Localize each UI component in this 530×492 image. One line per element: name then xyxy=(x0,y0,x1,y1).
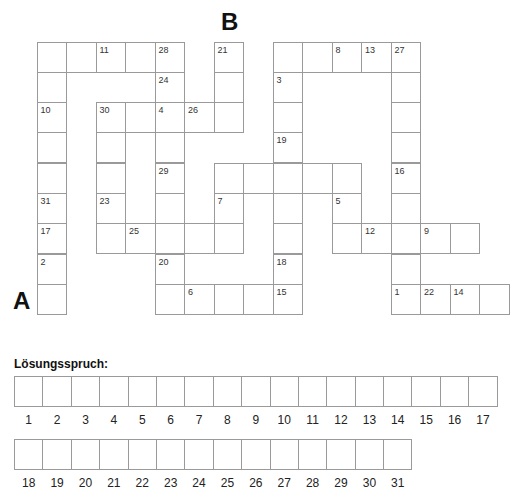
grid-cell[interactable] xyxy=(332,163,363,194)
grid-cell[interactable] xyxy=(37,132,68,163)
solution-letter-box[interactable]: 14 xyxy=(383,376,412,407)
solution-letter-box[interactable]: 2 xyxy=(42,376,71,407)
grid-cell[interactable] xyxy=(391,223,422,254)
grid-cell[interactable]: 23 xyxy=(96,193,127,224)
grid-cell[interactable]: 24 xyxy=(155,72,186,103)
grid-cell[interactable] xyxy=(96,223,127,254)
grid-cell[interactable] xyxy=(243,163,274,194)
grid-cell[interactable]: 3 xyxy=(273,72,304,103)
grid-cell[interactable] xyxy=(243,284,274,315)
solution-letter-box[interactable]: 19 xyxy=(42,439,71,470)
grid-cell[interactable] xyxy=(155,223,186,254)
solution-letter-box[interactable]: 11 xyxy=(298,376,327,407)
grid-cell[interactable] xyxy=(391,193,422,224)
grid-cell[interactable]: 31 xyxy=(37,193,68,224)
grid-cell[interactable]: 18 xyxy=(273,254,304,285)
solution-letter-box[interactable]: 17 xyxy=(468,376,497,407)
grid-cell[interactable]: 2 xyxy=(37,254,68,285)
solution-letter-box[interactable]: 24 xyxy=(184,439,213,470)
grid-cell[interactable] xyxy=(37,284,68,315)
grid-cell[interactable]: 14 xyxy=(450,284,481,315)
grid-cell[interactable] xyxy=(302,42,333,73)
solution-letter-box[interactable]: 13 xyxy=(355,376,384,407)
solution-letter-box[interactable]: 4 xyxy=(99,376,128,407)
grid-cell[interactable] xyxy=(391,132,422,163)
grid-cell[interactable] xyxy=(479,284,510,315)
grid-cell[interactable]: 16 xyxy=(391,163,422,194)
solution-letter-box[interactable]: 22 xyxy=(128,439,157,470)
grid-cell[interactable] xyxy=(37,72,68,103)
grid-cell[interactable]: 15 xyxy=(273,284,304,315)
grid-cell[interactable] xyxy=(125,102,156,133)
grid-cell[interactable]: 22 xyxy=(420,284,451,315)
solution-letter-box[interactable]: 29 xyxy=(326,439,355,470)
grid-cell[interactable] xyxy=(155,132,186,163)
grid-cell[interactable]: 19 xyxy=(273,132,304,163)
grid-cell[interactable]: 9 xyxy=(420,223,451,254)
grid-cell[interactable]: 25 xyxy=(125,223,156,254)
solution-letter-box[interactable]: 28 xyxy=(298,439,327,470)
grid-cell[interactable] xyxy=(37,42,68,73)
solution-letter-box[interactable]: 8 xyxy=(213,376,242,407)
grid-cell[interactable] xyxy=(125,42,156,73)
grid-cell[interactable] xyxy=(214,72,245,103)
grid-cell[interactable] xyxy=(450,223,481,254)
grid-cell[interactable]: 17 xyxy=(37,223,68,254)
grid-cell[interactable]: 21 xyxy=(214,42,245,73)
solution-letter-box[interactable]: 1 xyxy=(14,376,43,407)
grid-cell[interactable]: 28 xyxy=(155,42,186,73)
grid-cell[interactable]: 27 xyxy=(391,42,422,73)
solution-letter-box[interactable]: 21 xyxy=(99,439,128,470)
grid-cell[interactable]: 4 xyxy=(155,102,186,133)
solution-letter-box[interactable]: 27 xyxy=(270,439,299,470)
grid-cell[interactable] xyxy=(66,42,97,73)
grid-cell[interactable] xyxy=(96,132,127,163)
grid-cell[interactable] xyxy=(391,102,422,133)
grid-cell[interactable]: 7 xyxy=(214,193,245,224)
grid-cell[interactable]: 10 xyxy=(37,102,68,133)
grid-cell[interactable]: 8 xyxy=(332,42,363,73)
solution-letter-box[interactable]: 26 xyxy=(241,439,270,470)
grid-cell[interactable] xyxy=(302,163,333,194)
solution-letter-box[interactable]: 18 xyxy=(14,439,43,470)
grid-cell[interactable]: 13 xyxy=(361,42,392,73)
grid-cell[interactable] xyxy=(273,193,304,224)
grid-cell[interactable] xyxy=(96,163,127,194)
solution-letter-box[interactable]: 3 xyxy=(71,376,100,407)
grid-cell[interactable] xyxy=(37,163,68,194)
solution-letter-box[interactable]: 10 xyxy=(270,376,299,407)
grid-cell[interactable] xyxy=(214,223,245,254)
grid-cell[interactable] xyxy=(214,284,245,315)
solution-letter-box[interactable]: 16 xyxy=(440,376,469,407)
grid-cell[interactable]: 6 xyxy=(184,284,215,315)
grid-cell[interactable] xyxy=(273,102,304,133)
grid-cell[interactable] xyxy=(155,284,186,315)
grid-cell[interactable] xyxy=(214,102,245,133)
grid-cell[interactable]: 30 xyxy=(96,102,127,133)
grid-cell[interactable]: 29 xyxy=(155,163,186,194)
solution-letter-box[interactable]: 15 xyxy=(411,376,440,407)
grid-cell[interactable]: 26 xyxy=(184,102,215,133)
solution-letter-box[interactable]: 12 xyxy=(326,376,355,407)
solution-letter-box[interactable]: 31 xyxy=(383,439,412,470)
grid-cell[interactable] xyxy=(273,163,304,194)
grid-cell[interactable] xyxy=(214,163,245,194)
solution-letter-box[interactable]: 7 xyxy=(184,376,213,407)
grid-cell[interactable] xyxy=(332,223,363,254)
grid-cell[interactable] xyxy=(391,72,422,103)
grid-cell[interactable]: 20 xyxy=(155,254,186,285)
grid-cell[interactable]: 1 xyxy=(391,284,422,315)
grid-cell[interactable] xyxy=(273,223,304,254)
grid-cell[interactable] xyxy=(273,42,304,73)
solution-letter-box[interactable]: 5 xyxy=(128,376,157,407)
grid-cell[interactable]: 5 xyxy=(332,193,363,224)
solution-letter-box[interactable]: 30 xyxy=(355,439,384,470)
grid-cell[interactable] xyxy=(155,193,186,224)
solution-letter-box[interactable]: 20 xyxy=(71,439,100,470)
solution-letter-box[interactable]: 23 xyxy=(156,439,185,470)
solution-letter-box[interactable]: 25 xyxy=(213,439,242,470)
grid-cell[interactable]: 12 xyxy=(361,223,392,254)
grid-cell[interactable] xyxy=(184,223,215,254)
solution-letter-box[interactable]: 9 xyxy=(241,376,270,407)
grid-cell[interactable] xyxy=(391,254,422,285)
